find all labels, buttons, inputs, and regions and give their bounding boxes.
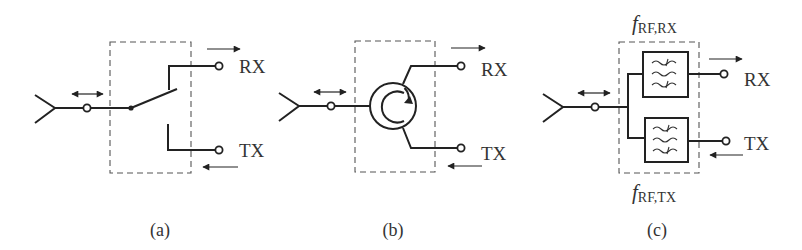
antenna-icon — [543, 94, 591, 122]
antenna-icon — [279, 93, 327, 121]
caption-c: (c) — [647, 220, 667, 241]
tx-label: TX — [744, 133, 770, 154]
panel-a-switch: RX TX (a) — [35, 42, 266, 241]
rx-terminal-icon — [215, 62, 222, 69]
rx-label: RX — [481, 59, 508, 80]
circulator-icon — [370, 83, 416, 129]
tx-terminal-icon — [215, 146, 222, 153]
spdt-switch-icon — [128, 66, 215, 150]
antenna-icon — [35, 95, 84, 123]
antenna-terminal-icon — [591, 103, 598, 110]
tx-leg — [403, 128, 457, 148]
tx-filter-frequency-label: fRF,TX — [632, 180, 676, 205]
tx-terminal-icon — [722, 137, 729, 144]
antenna-terminal-icon — [327, 102, 334, 109]
caption-b: (b) — [383, 220, 404, 241]
rx-terminal-icon — [720, 70, 727, 77]
tx-label: TX — [481, 143, 507, 164]
bandpass-filter-icon — [645, 118, 688, 162]
bandpass-filter-icon — [643, 52, 688, 97]
rx-terminal-icon — [457, 62, 464, 69]
caption-a: (a) — [150, 220, 170, 241]
tx-label: TX — [239, 140, 265, 161]
panel-b-circulator: RX TX (b) — [279, 41, 508, 241]
duplexing-diagrams: RX TX (a) RX TX — [0, 0, 802, 250]
antenna-terminal-icon — [83, 104, 90, 111]
tx-terminal-icon — [457, 144, 464, 151]
rx-label: RX — [744, 69, 771, 90]
rx-leg — [403, 66, 457, 84]
rx-label: RX — [239, 56, 266, 77]
rx-filter-frequency-label: fRF,RX — [632, 11, 677, 36]
panel-c-duplexer: RX TX fRF,RX fRF,TX (c) — [543, 11, 771, 241]
